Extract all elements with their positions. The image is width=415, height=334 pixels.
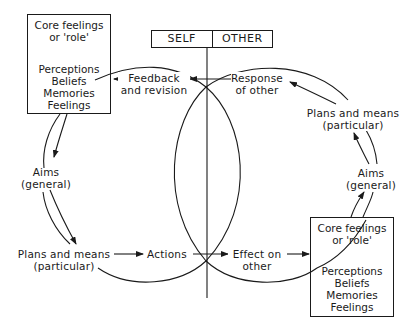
response-label: Response of other: [231, 72, 283, 96]
self-plans-label: Plans and means (particular): [16, 248, 112, 272]
self-aims-line-2: (general): [18, 178, 74, 190]
self-perceptions: Perceptions: [28, 63, 110, 75]
effect-line-1: Effect on: [228, 248, 286, 260]
other-box-to-aims-line: [363, 192, 373, 217]
response-line-2: of other: [231, 84, 283, 96]
other-perceptions: Perceptions: [311, 265, 393, 277]
self-box-to-aims-line-a: [44, 114, 60, 168]
other-plans-line-1: Plans and means: [305, 107, 401, 119]
other-aims-to-plans-line: [366, 130, 377, 164]
self-plans-line-1: Plans and means: [16, 248, 112, 260]
other-cycle-arc-inner: [206, 87, 240, 261]
other-aims-to-plans-arrow: [354, 133, 369, 164]
response-line-1: Response: [231, 72, 283, 84]
other-plans-line-2: (particular): [305, 119, 401, 131]
feedback-line-1: Feedback: [118, 72, 190, 84]
other-beliefs: Beliefs: [311, 277, 393, 289]
self-core-line-1: Core feelings: [28, 19, 110, 31]
other-header-label: OTHER: [213, 31, 273, 47]
self-memories: Memories: [28, 87, 110, 99]
self-aims-label: Aims (general): [18, 166, 74, 190]
other-aims-label: Aims (general): [343, 167, 399, 191]
self-aims-to-plans-line-a: [43, 192, 70, 244]
other-core-box: Core feelings or 'role' Perceptions Beli…: [310, 217, 394, 317]
self-core-box: Core feelings or 'role' Perceptions Beli…: [27, 14, 111, 114]
self-plans-line-2: (particular): [16, 260, 112, 272]
self-core-line-2: or 'role': [28, 31, 110, 43]
other-box-to-aims-arrow: [351, 192, 364, 217]
other-memories: Memories: [311, 289, 393, 301]
self-cycle-arc-inner: [174, 87, 206, 261]
other-plans-label: Plans and means (particular): [305, 107, 401, 131]
other-core-line-2: or 'role': [311, 234, 393, 246]
self-beliefs: Beliefs: [28, 75, 110, 87]
self-other-header: SELF OTHER: [151, 30, 273, 48]
feedback-line-2: and revision: [118, 84, 190, 96]
other-feelings: Feelings: [311, 301, 393, 313]
self-feelings: Feelings: [28, 99, 110, 111]
other-aims-line-2: (general): [343, 179, 399, 191]
plans-to-response-arrow: [290, 82, 336, 104]
feedback-label: Feedback and revision: [118, 72, 190, 96]
self-header-label: SELF: [152, 31, 213, 47]
actions-label: Actions: [145, 248, 189, 260]
other-aims-line-1: Aims: [343, 167, 399, 179]
plans-to-actions-arc: [98, 261, 206, 282]
self-aims-line-1: Aims: [18, 166, 74, 178]
effect-label: Effect on other: [228, 248, 286, 272]
other-core-line-1: Core feelings: [311, 222, 393, 234]
effect-line-2: other: [228, 260, 286, 272]
